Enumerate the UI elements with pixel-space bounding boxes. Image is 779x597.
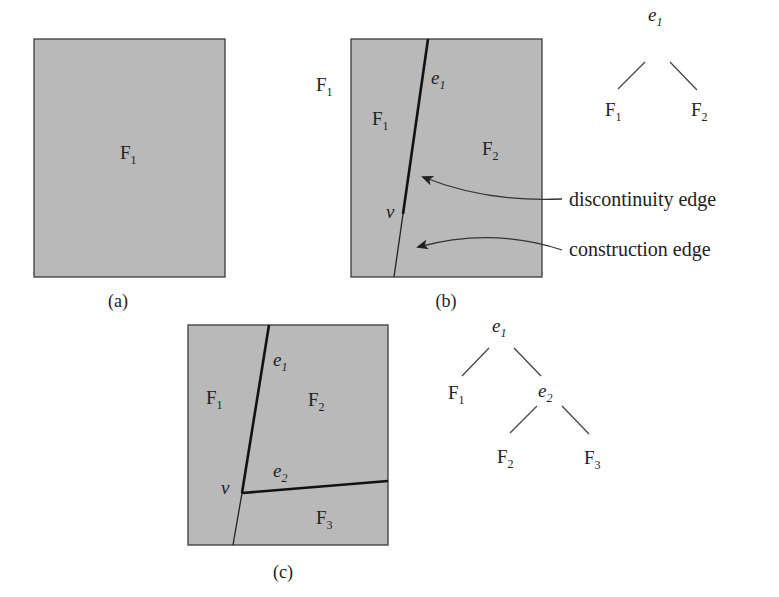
vertex-label-v: v [386, 201, 395, 222]
tree-branch-left [462, 348, 489, 376]
outside-label-f1: F1 [316, 74, 333, 99]
panel-c: e1 F1 F2 e2 v F3 (c) e1 F1 e2 F2 F3 [188, 315, 601, 583]
tree-leaf-f2: F2 [497, 446, 514, 471]
tree-branch-e2-left [510, 406, 537, 433]
tree-node-e1: e1 [648, 4, 662, 29]
face-region-c [188, 325, 388, 545]
tree-node-e2: e2 [538, 380, 552, 405]
caption-c: (c) [273, 562, 293, 583]
tree-leaf-f2: F2 [691, 99, 708, 124]
vertex-label-v: v [221, 477, 230, 498]
tree-leaf-f3: F3 [584, 447, 601, 472]
tree-node-e1: e1 [492, 315, 506, 340]
caption-a: (a) [108, 291, 128, 312]
bsp-tree-b: e1 F1 F2 [605, 4, 708, 124]
panel-b: F1 e1 F1 F2 v discontinuity edge constru… [316, 4, 716, 312]
tree-leaf-f1: F1 [448, 382, 465, 407]
bsp-diagram: F1 (a) F1 e1 F1 F2 v discontinuity edge … [0, 0, 779, 597]
caption-b: (b) [436, 291, 457, 312]
tree-branch-e2-right [562, 406, 589, 434]
bsp-tree-c: e1 F1 e2 F2 F3 [448, 315, 601, 472]
tree-branch-left [618, 62, 645, 89]
tree-branch-right [514, 348, 541, 376]
panel-a: F1 (a) [34, 39, 225, 312]
discontinuity-edge-label: discontinuity edge [569, 188, 716, 211]
tree-leaf-f1: F1 [605, 99, 622, 124]
construction-edge-label: construction edge [569, 238, 711, 261]
tree-branch-right [670, 62, 697, 90]
